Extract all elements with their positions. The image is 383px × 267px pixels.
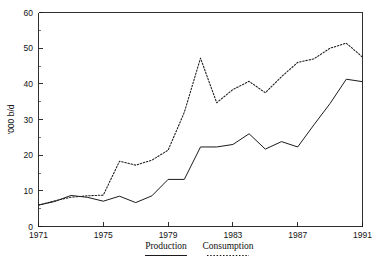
plot-border: [39, 13, 363, 227]
x-tick-label: 1979: [159, 230, 178, 240]
x-tick-label: 1987: [288, 230, 307, 240]
chart-legend: ProductionConsumption: [145, 241, 254, 256]
y-tick-label: 10: [24, 186, 34, 196]
y-tick-label: 50: [24, 43, 34, 53]
x-tick-label: 1983: [223, 230, 242, 240]
series-line-production: [39, 79, 363, 205]
y-tick-label: 60: [24, 8, 34, 18]
legend-label-production: Production: [145, 241, 187, 251]
y-axis-tick-labels: 0102030405060: [24, 8, 34, 232]
x-tick-label: 1975: [94, 230, 113, 240]
chart-page: 0102030405060 197119751979198319871991 '…: [0, 0, 383, 267]
x-axis-tick-labels: 197119751979198319871991: [29, 230, 372, 240]
x-axis-ticks: [39, 222, 363, 227]
y-tick-label: 40: [24, 79, 34, 89]
y-axis-title: '000 b/d: [6, 104, 16, 134]
y-axis-title-text: '000 b/d: [6, 104, 16, 134]
data-series-group: [39, 43, 363, 205]
legend-label-consumption: Consumption: [202, 241, 253, 251]
y-axis-ticks: [39, 13, 44, 227]
y-tick-label: 20: [24, 150, 34, 160]
x-tick-label: 1991: [353, 230, 372, 240]
x-tick-label: 1971: [29, 230, 48, 240]
plot-frame: [39, 13, 363, 227]
y-tick-label: 30: [24, 115, 34, 125]
plot-axes: [39, 13, 363, 227]
line-chart: 0102030405060 197119751979198319871991 '…: [0, 0, 383, 267]
